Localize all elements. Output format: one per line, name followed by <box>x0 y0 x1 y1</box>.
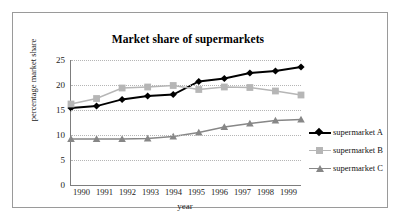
data-point-marker <box>93 102 100 109</box>
x-tick-label: 1996 <box>208 187 231 201</box>
gridline <box>71 60 301 61</box>
legend-item[interactable]: supermarket A <box>309 123 403 141</box>
data-point-marker <box>93 95 100 102</box>
data-point-marker <box>221 75 228 82</box>
x-tick-label: 1997 <box>231 187 254 201</box>
legend-marker-diamond-icon <box>309 127 331 137</box>
x-tick-label: 1993 <box>139 187 162 201</box>
chart-frame: Market share of supermarkets percentage … <box>12 12 388 208</box>
x-tick-label: 1992 <box>116 187 139 201</box>
x-tick-label: 1994 <box>162 187 185 201</box>
legend-label: supermarket C <box>333 163 383 173</box>
y-tick-label: 10 <box>43 130 65 140</box>
legend-marker-triangle-icon <box>309 163 331 173</box>
y-tick-label: 25 <box>43 55 65 65</box>
data-point-marker <box>297 63 304 70</box>
data-point-marker <box>170 91 177 98</box>
x-tick-label: 1990 <box>70 187 93 201</box>
x-axis-tick-labels: 1990199119921993199419951996199719981999 <box>70 187 300 201</box>
plot-area <box>70 60 301 186</box>
series-canvas <box>71 60 301 185</box>
x-tick-label: 1999 <box>277 187 300 201</box>
x-tick-label: 1998 <box>254 187 277 201</box>
y-tick-label: 5 <box>43 155 65 165</box>
x-tick-label: 1995 <box>185 187 208 201</box>
data-point-marker <box>144 92 151 99</box>
gridline <box>71 85 301 86</box>
legend-item[interactable]: supermarket C <box>309 159 403 177</box>
y-tick-label: 20 <box>43 80 65 90</box>
y-axis-title: percentage market share <box>28 16 38 144</box>
legend-marker-square-icon <box>309 145 331 155</box>
x-tick-label: 1991 <box>93 187 116 201</box>
gridline <box>71 160 301 161</box>
x-axis-title: year <box>70 201 300 211</box>
series-line <box>71 120 301 140</box>
chart-legend: supermarket Asupermarket Bsupermarket C <box>309 123 403 177</box>
y-axis-tick-labels: 0510152025 <box>39 60 65 185</box>
data-point-marker <box>119 96 126 103</box>
data-point-marker <box>68 101 75 108</box>
legend-label: supermarket B <box>333 145 383 155</box>
gridline <box>71 110 301 111</box>
gridline <box>71 135 301 136</box>
data-point-marker <box>272 67 279 74</box>
legend-item[interactable]: supermarket B <box>309 141 403 159</box>
data-point-marker <box>272 88 279 95</box>
data-point-marker <box>195 86 202 93</box>
data-point-marker <box>298 92 305 99</box>
chart-title: Market share of supermarkets <box>73 33 303 45</box>
data-point-marker <box>246 69 253 76</box>
y-tick-label: 0 <box>43 180 65 190</box>
legend-label: supermarket A <box>333 127 383 137</box>
y-tick-label: 15 <box>43 105 65 115</box>
